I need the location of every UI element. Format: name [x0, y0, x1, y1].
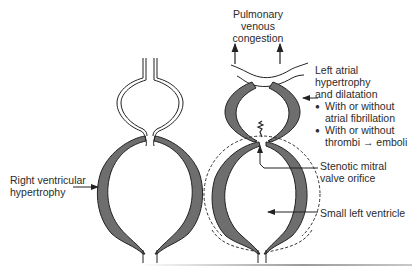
- label-line: hypertrophy: [10, 186, 86, 198]
- label-line: venous: [228, 20, 288, 32]
- bullet-atrial-fibrillation: With or without atrial fibrillation: [315, 100, 407, 124]
- left-outflow-lines: [143, 250, 157, 263]
- label-line: Left atrial: [315, 64, 407, 76]
- bullet-thrombi-emboli: With or without thrombi → emboli: [315, 124, 407, 148]
- right-heart: [200, 44, 320, 266]
- label-line: thrombi → emboli: [325, 136, 407, 148]
- label-line: hypertrophy: [315, 76, 407, 88]
- label-line: congestion: [228, 32, 288, 44]
- label-line: and dilatation: [315, 88, 407, 100]
- label-line: atrial fibrillation: [325, 112, 407, 124]
- label-line: With or without: [325, 100, 407, 112]
- left-atrium-normal: [117, 58, 183, 136]
- pulmonary-venous-congestion-label: Pulmonary venous congestion: [228, 8, 288, 44]
- label-line: Stenotic mitral: [320, 160, 387, 172]
- label-line: valve orifice: [320, 172, 387, 184]
- left-atrium-walls: [225, 82, 300, 142]
- label-line: With or without: [325, 124, 407, 136]
- left-heart: [73, 58, 203, 263]
- thrombus-squiggle: [258, 121, 263, 137]
- bottom-divider: [140, 264, 412, 266]
- label-line: Right ventricular: [10, 174, 86, 186]
- right-ventricle-walls: [97, 136, 202, 254]
- stenotic-valve-label: Stenotic mitral valve orifice: [320, 160, 387, 184]
- left-atrial-label: Left atrial hypertrophy and dilatation W…: [315, 64, 407, 148]
- pulmonary-veins: [231, 63, 308, 87]
- label-line: Pulmonary: [228, 8, 288, 20]
- right-ventricular-hypertrophy-label: Right ventricular hypertrophy: [10, 174, 86, 198]
- small-left-ventricle-label: Small left ventricle: [320, 207, 405, 219]
